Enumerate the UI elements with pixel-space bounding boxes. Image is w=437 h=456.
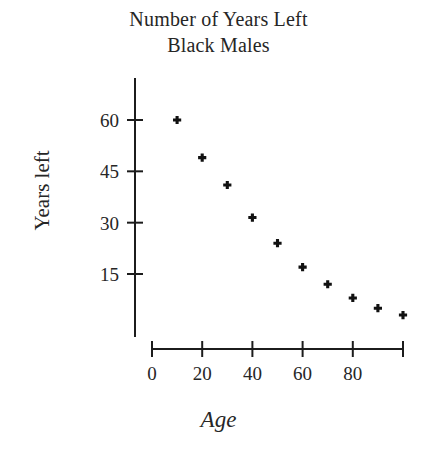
y-axis: 15304560 (100, 78, 143, 337)
data-point (324, 280, 332, 288)
data-point (198, 154, 206, 162)
scatter-plot-area: 15304560 020406080 (0, 0, 437, 456)
x-axis: 020406080 (147, 341, 403, 384)
x-tick-label: 0 (147, 363, 157, 384)
x-tick-label: 60 (293, 363, 312, 384)
y-tick-label: 60 (100, 110, 119, 131)
data-points (173, 116, 407, 319)
data-point (349, 294, 357, 302)
chart-figure: Number of Years Left Black Males Years l… (0, 0, 437, 456)
y-tick-label: 45 (100, 161, 119, 182)
data-point (299, 263, 307, 271)
data-point (374, 304, 382, 312)
y-tick-label: 30 (100, 213, 119, 234)
y-tick-label: 15 (100, 264, 119, 285)
data-point (173, 116, 181, 124)
x-tick-label: 40 (243, 363, 262, 384)
data-point (399, 311, 407, 319)
data-point (223, 181, 231, 189)
data-point (248, 213, 256, 221)
data-point (273, 239, 281, 247)
x-tick-label: 20 (193, 363, 212, 384)
x-tick-label: 80 (343, 363, 362, 384)
